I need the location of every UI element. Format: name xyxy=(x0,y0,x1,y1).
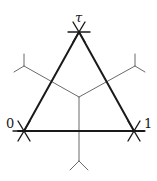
label-tau: τ xyxy=(75,10,83,25)
vertex-star-top xyxy=(68,22,90,42)
edge-right xyxy=(79,32,134,131)
fork-upper-left xyxy=(14,54,24,72)
vertex-star-right xyxy=(123,121,145,141)
fork-upper-right xyxy=(135,54,145,72)
vertex-star-left xyxy=(13,121,35,141)
label-one: 1 xyxy=(144,116,152,131)
label-zero: 0 xyxy=(6,116,14,131)
edge-left xyxy=(24,32,79,131)
triangle-diagram: τ 0 1 xyxy=(0,0,157,181)
fork-bottom xyxy=(70,161,88,170)
triangle xyxy=(18,32,144,131)
